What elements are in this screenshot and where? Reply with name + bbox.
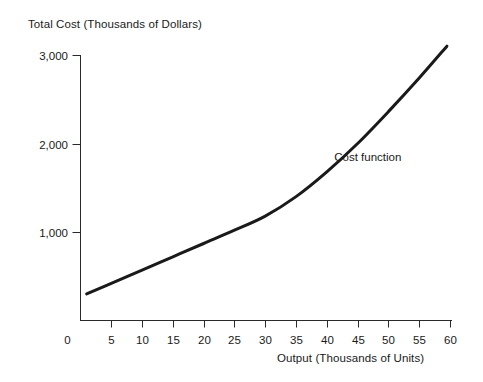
x-tick-label: 45	[352, 334, 365, 346]
cost-function-curve	[87, 46, 447, 294]
x-tick-label: 10	[136, 334, 149, 346]
x-tick-label: 50	[382, 334, 395, 346]
y-tick-label: 2,000	[20, 139, 68, 151]
x-tick-label: 0	[64, 334, 70, 346]
y-tick-label: 3,000	[20, 50, 68, 62]
x-axis-ticks	[112, 321, 451, 328]
x-tick-label: 35	[290, 334, 303, 346]
y-axis-ticks	[73, 56, 81, 233]
plot-area	[0, 0, 483, 382]
x-tick-label: 55	[413, 334, 426, 346]
cost-function-chart: Total Cost (Thousands of Dollars) Output…	[0, 0, 483, 382]
axis-lines	[80, 55, 452, 321]
x-tick-label: 20	[198, 334, 211, 346]
x-tick-label: 40	[321, 334, 334, 346]
x-tick-label: 25	[228, 334, 241, 346]
x-tick-label: 60	[444, 334, 457, 346]
cost-function-label: Cost function	[334, 151, 401, 163]
x-tick-label: 5	[108, 334, 114, 346]
y-tick-label: 1,000	[20, 227, 68, 239]
x-tick-label: 30	[259, 334, 272, 346]
x-tick-label: 15	[167, 334, 180, 346]
